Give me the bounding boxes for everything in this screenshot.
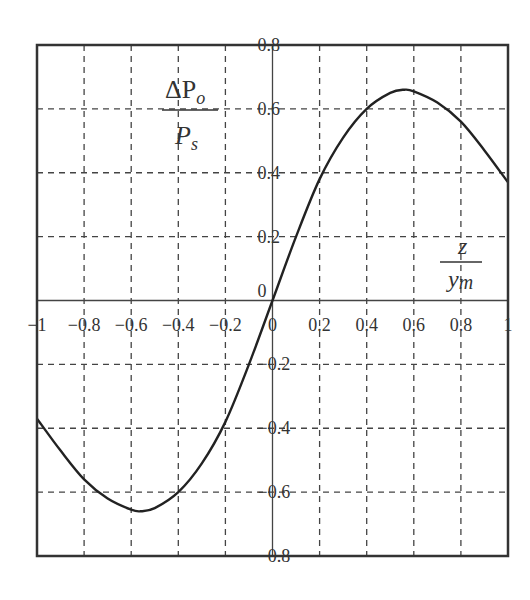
x-tick-label: 0.4 <box>355 315 378 335</box>
chart: −1−0.8−0.6−0.4−0.200.20.40.60.81 0.80.60… <box>0 0 530 600</box>
y-tick-label: −0.6 <box>258 482 291 502</box>
y-tick-label: −0.4 <box>258 418 291 438</box>
x-tick-label: −0.2 <box>209 315 242 335</box>
x-label-numerator: z <box>457 233 468 259</box>
x-tick-label: −0.4 <box>162 315 195 335</box>
x-tick-label: −0.6 <box>115 315 148 335</box>
x-tick-label: 0.2 <box>308 315 331 335</box>
y-label-numerator: ΔPo <box>165 75 205 108</box>
x-tick-label: 0 <box>268 315 277 335</box>
x-axis-label: z ym <box>440 233 482 293</box>
y-label-denominator: Ps <box>174 121 198 154</box>
y-tick-label: −0.2 <box>258 354 291 374</box>
x-tick-label: −0.8 <box>68 315 101 335</box>
x-tick-label: −1 <box>27 315 46 335</box>
x-tick-label: 1 <box>504 315 513 335</box>
x-tick-label: 0.6 <box>403 315 426 335</box>
y-tick-label: 0.2 <box>258 227 281 247</box>
y-tick-label: 0.4 <box>258 163 281 183</box>
y-tick-label: 0 <box>258 281 267 301</box>
x-tick-labels: −1−0.8−0.6−0.4−0.200.20.40.60.81 <box>27 315 512 335</box>
y-tick-label: 0.6 <box>258 99 281 119</box>
x-label-denominator: ym <box>446 266 473 293</box>
y-axis-label: ΔPo Ps <box>162 75 218 154</box>
x-tick-label: 0.8 <box>450 315 473 335</box>
y-tick-label: −0.8 <box>258 546 291 566</box>
y-tick-label: 0.8 <box>258 35 281 55</box>
